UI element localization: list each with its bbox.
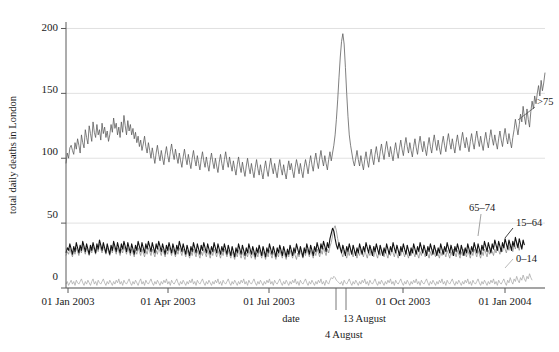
x-tick-label-jan-2004: 01 Jan 2004: [478, 295, 532, 307]
series-label-over-75: >75: [537, 96, 553, 107]
y-tick-label-0: 0: [53, 270, 59, 282]
annotation-label-13-august: 13 August: [343, 313, 386, 324]
series-label-15-64: 15–64: [516, 217, 543, 228]
y-tick-label-50: 50: [47, 208, 59, 220]
x-axis-title: date: [282, 313, 300, 324]
chart-figure: 200 150 100 50 0 01 Jan 2003 01 Apr 2003…: [0, 0, 559, 352]
y-tick-label-100: 100: [42, 145, 59, 157]
annotation-label-4-august: 4 August: [325, 329, 363, 340]
x-tick-label-oct-2003: 01 Oct 2003: [376, 295, 431, 307]
x-tick-label-apr-2003: 01 Apr 2003: [141, 295, 197, 307]
y-axis-title: total daily deaths in London: [7, 95, 18, 214]
x-tick-label-jul-2003: 01 Jul 2003: [243, 295, 295, 307]
daily-deaths-line-chart: 200 150 100 50 0 01 Jan 2003 01 Apr 2003…: [0, 0, 559, 352]
series-label-0-14: 0–14: [516, 253, 538, 264]
x-tick-label-jan-2003: 01 Jan 2003: [41, 295, 95, 307]
series-label-65-74: 65–74: [469, 202, 496, 213]
y-tick-label-150: 150: [42, 83, 59, 95]
y-tick-label-200: 200: [42, 21, 59, 33]
